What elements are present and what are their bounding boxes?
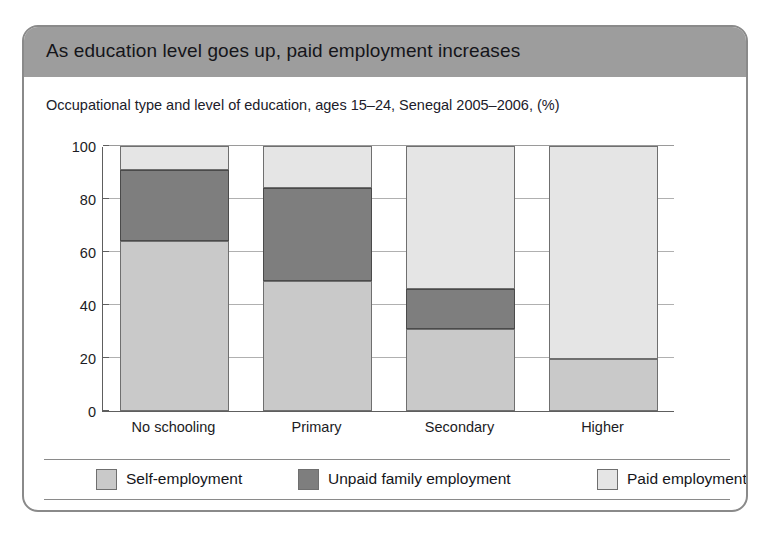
bar-segment[interactable] (406, 329, 515, 411)
y-axis-tick-labels: 020406080100 (44, 147, 96, 412)
chart-legend: Self-employmentUnpaid family employmentP… (44, 459, 730, 499)
bar-segment[interactable] (406, 146, 515, 289)
chart-plot-wrapper: 020406080100 No schoolingPrimarySecondar… (24, 27, 748, 512)
y-axis-tick-mark (103, 198, 109, 199)
bar-segment[interactable] (263, 281, 372, 411)
bar-column[interactable] (549, 146, 658, 411)
x-axis-tick-label: No schooling (99, 419, 249, 435)
legend-swatch-icon (597, 469, 618, 490)
legend-swatch-icon (298, 469, 319, 490)
plot-area (102, 147, 674, 412)
y-axis-tick-label: 100 (50, 139, 96, 155)
legend-item[interactable]: Unpaid family employment (298, 459, 511, 499)
chart-card: As education level goes up, paid employm… (22, 25, 748, 512)
legend-label: Unpaid family employment (328, 470, 511, 488)
x-axis-tick-label: Secondary (385, 419, 535, 435)
bar-segment[interactable] (263, 188, 372, 281)
y-axis-tick-label: 20 (50, 351, 96, 367)
bar-segment[interactable] (120, 170, 229, 242)
bar-segment[interactable] (263, 146, 372, 188)
legend-swatch-icon (96, 469, 117, 490)
bar-segment[interactable] (549, 359, 658, 411)
bar-segment[interactable] (549, 146, 658, 359)
source-note: Source: Understanding Children's Work (U… (46, 508, 634, 512)
y-axis-tick-mark (103, 304, 109, 305)
y-axis-tick-label: 40 (50, 298, 96, 314)
x-axis-tick-label: Higher (528, 419, 678, 435)
legend-item[interactable]: Self-employment (96, 459, 242, 499)
legend-separator-bottom (44, 499, 730, 500)
y-axis-tick-mark (103, 357, 109, 358)
bar-segment[interactable] (406, 289, 515, 329)
x-axis-tick-label: Primary (242, 419, 392, 435)
legend-label: Paid employment (627, 470, 747, 488)
bar-column[interactable] (406, 146, 515, 411)
y-axis-tick-mark (103, 251, 109, 252)
bar-column[interactable] (120, 146, 229, 411)
y-axis-tick-mark (103, 145, 109, 146)
y-axis-tick-label: 60 (50, 245, 96, 261)
bar-segment[interactable] (120, 146, 229, 170)
y-axis-tick-label: 80 (50, 192, 96, 208)
legend-label: Self-employment (126, 470, 242, 488)
bar-column[interactable] (263, 146, 372, 411)
y-axis-tick-label: 0 (50, 404, 96, 420)
legend-item[interactable]: Paid employment (597, 459, 747, 499)
bar-segment[interactable] (120, 241, 229, 411)
y-axis-tick-mark (103, 410, 109, 411)
